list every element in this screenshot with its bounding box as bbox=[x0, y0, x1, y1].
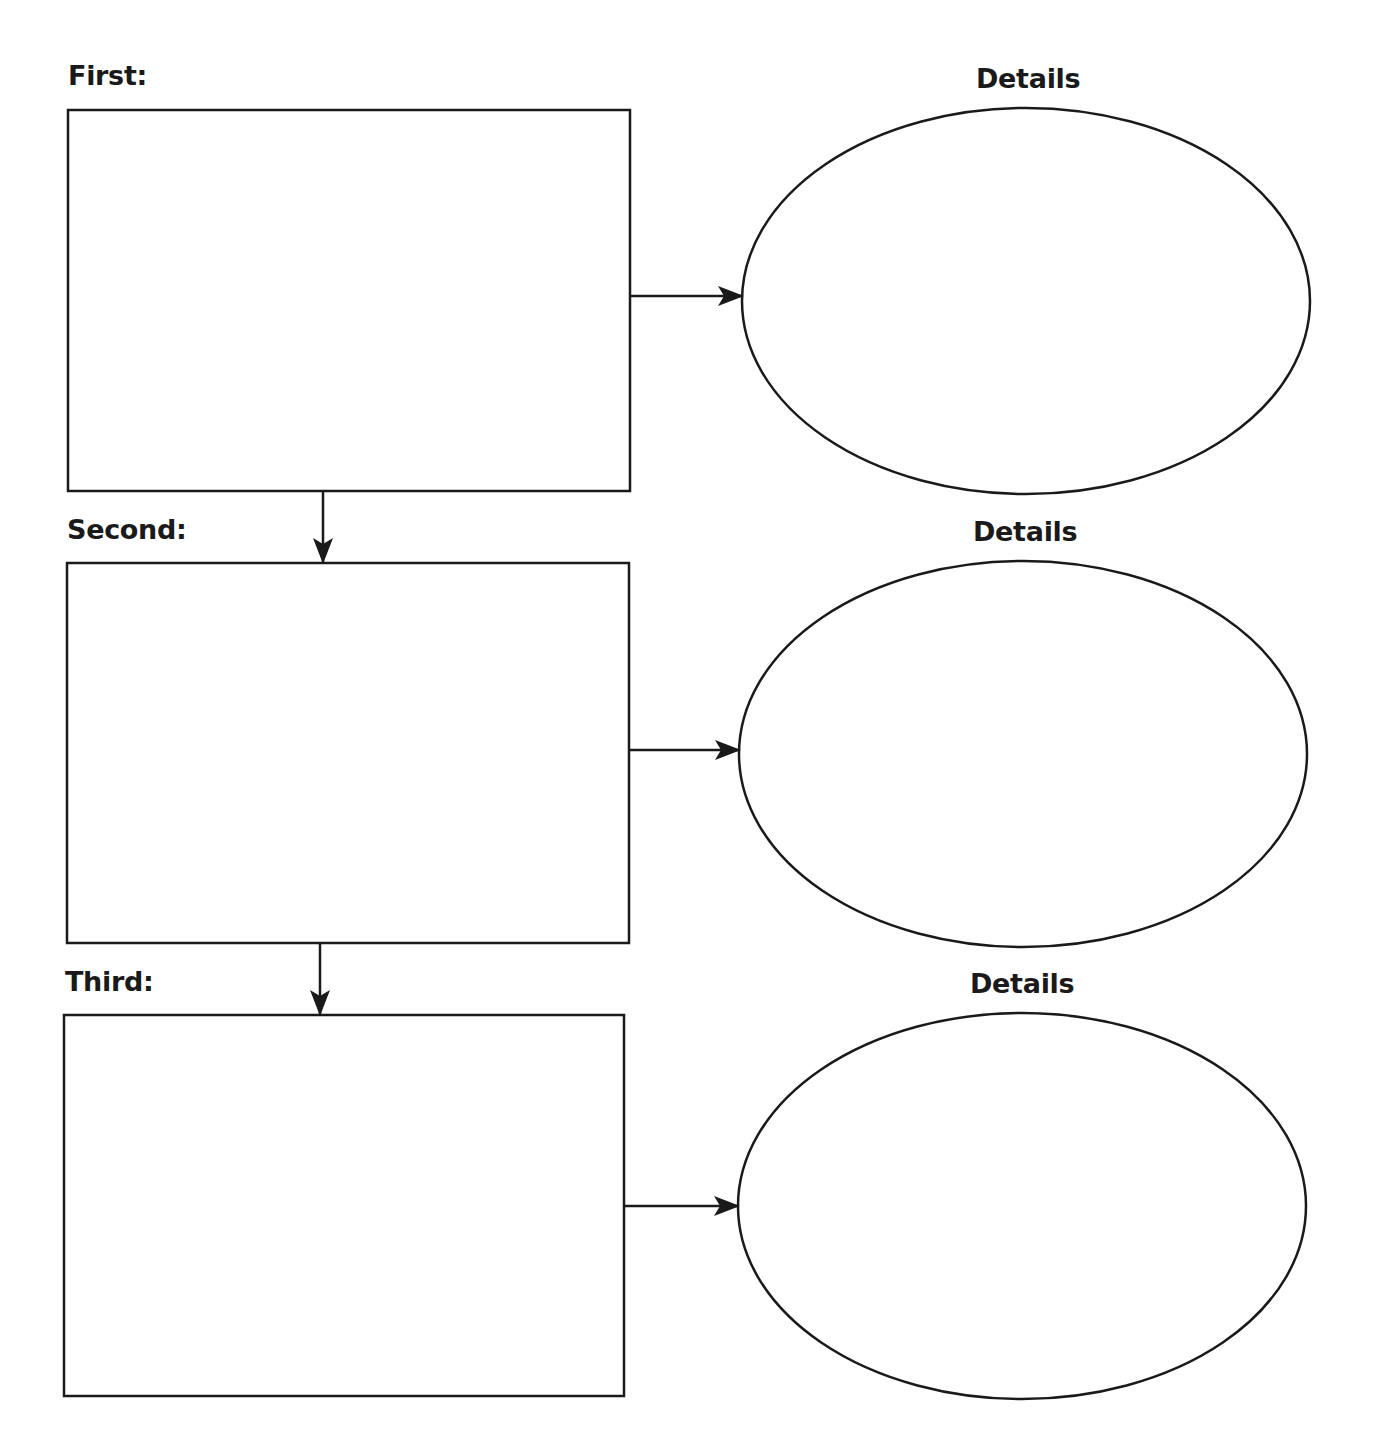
step-3-box bbox=[64, 1015, 624, 1396]
step-1-details-label: Details bbox=[976, 63, 1080, 94]
step-3-details-label: Details bbox=[970, 968, 1074, 999]
step-2-label: Second: bbox=[67, 514, 187, 545]
step-1-label: First: bbox=[68, 60, 147, 91]
step-1-details-ellipse bbox=[742, 108, 1310, 494]
step-2-details-ellipse bbox=[739, 561, 1307, 947]
sequence-organizer-diagram bbox=[0, 0, 1386, 1454]
step-3-label: Third: bbox=[65, 966, 154, 997]
step-2-details-label: Details bbox=[973, 516, 1077, 547]
step-2-box bbox=[67, 563, 629, 943]
step-3-details-ellipse bbox=[738, 1013, 1306, 1399]
step-1-box bbox=[68, 110, 630, 491]
